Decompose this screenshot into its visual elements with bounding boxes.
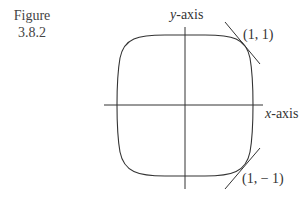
point-label-lower: (1, − 1): [242, 171, 284, 187]
y-axis-label: y-axis: [168, 7, 203, 22]
x-axis-label: x-axis: [264, 106, 298, 121]
figure-diagram: y-axis x-axis (1, 1) (1, − 1): [0, 0, 304, 201]
point-label-upper: (1, 1): [243, 27, 274, 43]
